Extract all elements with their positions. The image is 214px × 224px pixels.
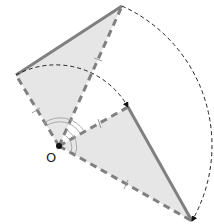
center-label: O	[46, 150, 56, 165]
center-point	[56, 143, 62, 149]
triangle-rotated	[59, 107, 192, 221]
rotation-diagram: O	[0, 0, 214, 224]
